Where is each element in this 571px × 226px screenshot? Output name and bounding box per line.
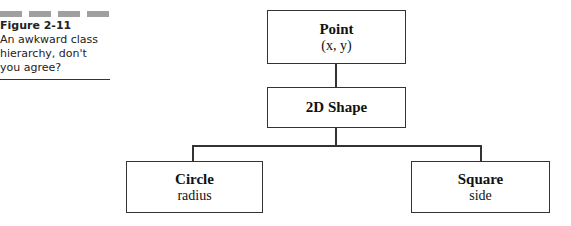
- edge-to-circle: [192, 145, 194, 162]
- dash: [0, 11, 22, 17]
- edge-shape2d-down: [335, 127, 337, 146]
- figure-number: Figure 2-11: [0, 19, 110, 33]
- figure-caption: Figure 2-11 An awkward class hierarchy, …: [0, 19, 110, 75]
- node-square: Square side: [411, 161, 550, 213]
- node-attribute: side: [469, 188, 492, 204]
- dash: [29, 11, 51, 17]
- figure-dashes: [0, 11, 109, 17]
- edge-point-shape2d: [335, 63, 337, 88]
- edge-to-square: [480, 145, 482, 162]
- node-attribute: (x, y): [321, 38, 351, 54]
- caption-underline: [0, 79, 110, 80]
- figure-caption-text: An awkward class hierarchy, don't you ag…: [0, 33, 110, 75]
- node-title: Point: [319, 21, 353, 38]
- node-title: Square: [458, 171, 504, 188]
- dash: [87, 11, 109, 17]
- node-point: Point (x, y): [267, 10, 406, 64]
- node-title: 2D Shape: [306, 99, 367, 116]
- dash: [58, 11, 80, 17]
- node-circle: Circle radius: [126, 161, 263, 213]
- node-2d-shape: 2D Shape: [267, 87, 406, 128]
- node-attribute: radius: [177, 188, 211, 204]
- edge-horizontal-bar: [192, 145, 482, 147]
- node-title: Circle: [175, 171, 214, 188]
